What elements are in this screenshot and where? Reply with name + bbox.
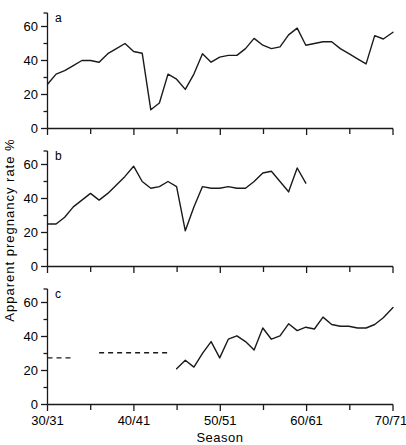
panel-b: b 0 20 40 60 <box>24 149 393 274</box>
x-tick-label-4: 70/71 <box>375 413 406 428</box>
panel-c-y-ticks <box>41 289 48 405</box>
three-panel-line-chart: Apparent pregnancy rate % a 0 20 40 <box>0 0 406 445</box>
panel-b-data-line <box>48 166 289 231</box>
panel-c-x-ticks <box>48 405 394 412</box>
panel-c-ytick-20: 20 <box>24 363 38 378</box>
panel-a-data-line <box>48 28 394 110</box>
x-tick-label-2: 50/51 <box>204 413 237 428</box>
y-axis-title: Apparent pregnancy rate % <box>2 138 17 321</box>
panel-a-y-ticks <box>41 13 48 129</box>
x-axis-title: Season <box>196 430 243 445</box>
panel-a-ytick-0: 0 <box>31 121 38 136</box>
panel-b-y-ticks <box>41 151 48 267</box>
panel-a: a 0 20 40 60 <box>24 11 393 136</box>
panel-c-ytick-60: 60 <box>24 295 38 310</box>
x-tick-label-0: 30/31 <box>31 413 64 428</box>
panel-c-ytick-40: 40 <box>24 329 38 344</box>
panel-a-ytick-60: 60 <box>24 19 38 34</box>
panel-b-ytick-20: 20 <box>24 225 38 240</box>
panel-a-letter: a <box>55 11 62 25</box>
panel-b-data-line-tail <box>289 168 306 192</box>
panel-c: c 0 20 40 60 <box>24 287 393 412</box>
figure-panel-group: Apparent pregnancy rate % a 0 20 40 <box>0 0 406 445</box>
panel-a-ytick-20: 20 <box>24 87 38 102</box>
panel-b-letter: b <box>55 149 62 163</box>
panel-b-ytick-0: 0 <box>31 259 38 274</box>
x-tick-label-3: 60/61 <box>290 413 323 428</box>
panel-b-ytick-60: 60 <box>24 157 38 172</box>
x-tick-label-1: 40/41 <box>118 413 151 428</box>
panel-b-ytick-40: 40 <box>24 191 38 206</box>
panel-a-x-ticks <box>48 129 394 136</box>
panel-c-letter: c <box>55 287 61 301</box>
panel-c-ytick-0: 0 <box>31 397 38 412</box>
panel-b-x-ticks <box>48 267 394 274</box>
panel-a-ytick-40: 40 <box>24 53 38 68</box>
panel-c-data-line <box>177 308 393 369</box>
